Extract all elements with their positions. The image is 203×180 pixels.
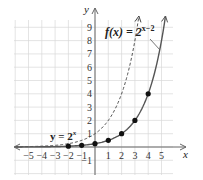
y-tick-label: 4 xyxy=(87,88,92,99)
f-label-exponent: x−2 xyxy=(142,24,155,33)
x-tick-label: −4 xyxy=(36,150,47,161)
x-tick-label: 4 xyxy=(146,150,151,161)
x-axis-label: x xyxy=(182,148,188,160)
x-tick-label: 2 xyxy=(119,150,124,161)
y-tick-label: 1 xyxy=(87,128,92,139)
data-point xyxy=(146,91,151,96)
x-tick-label: −5 xyxy=(23,150,34,161)
exponential-graph: −5−4−3−2−112345−1123456789 y x f(x) = 2x… xyxy=(0,0,203,180)
data-point xyxy=(92,141,97,146)
x-tick-label: −2 xyxy=(63,150,74,161)
g-label: y = 2x xyxy=(50,129,77,142)
data-point xyxy=(119,131,124,136)
annotations: y x f(x) = 2x−2 y = 2x xyxy=(50,3,188,160)
data-point xyxy=(66,144,71,149)
y-tick-label: 2 xyxy=(87,115,92,126)
f-label-main: f(x) = 2 xyxy=(105,25,142,39)
y-tick-label: 8 xyxy=(87,35,92,46)
data-point xyxy=(132,118,137,123)
y-axis-label: y xyxy=(83,3,89,15)
y-tick-label: −1 xyxy=(81,155,92,166)
y-tick-label: 3 xyxy=(87,102,92,113)
y-tick-label: 6 xyxy=(87,62,92,73)
x-tick-label: −3 xyxy=(50,150,61,161)
x-tick-label: 3 xyxy=(132,150,137,161)
y-tick-label: 7 xyxy=(87,48,92,59)
f-label: f(x) = 2x−2 xyxy=(105,24,154,39)
g-label-main: y = 2 xyxy=(50,130,73,142)
x-tick-label: 1 xyxy=(106,150,111,161)
data-point xyxy=(79,143,84,148)
x-tick-label: 5 xyxy=(159,150,164,161)
g-label-exponent: x xyxy=(72,129,77,137)
y-tick-label: 5 xyxy=(87,75,92,86)
y-tick-label: 9 xyxy=(87,22,92,33)
data-point xyxy=(106,138,111,143)
